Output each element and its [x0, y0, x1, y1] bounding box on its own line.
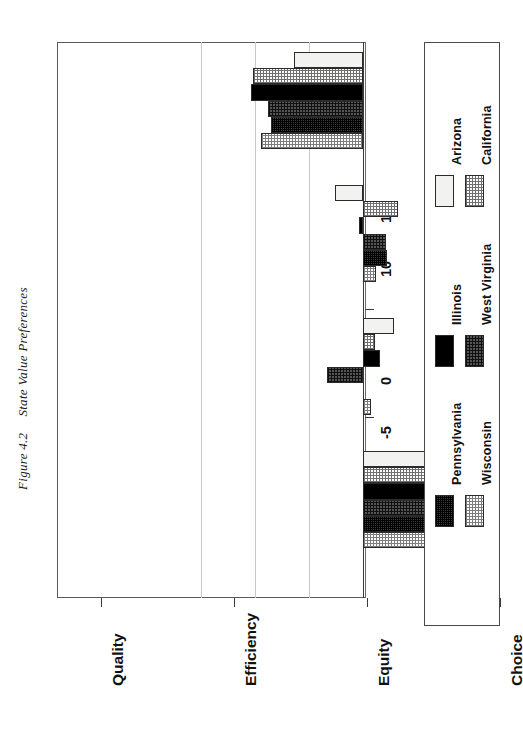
legend-swatch-california [465, 175, 484, 207]
category-label-efficiency: Efficiency [242, 613, 260, 686]
legend-label-illinois: Illinois [450, 284, 464, 325]
bar-equity-california [363, 334, 375, 350]
legend-swatch-illinois [435, 335, 454, 367]
value-tick--5 [365, 417, 374, 418]
category-label-choice: Choice [508, 634, 523, 686]
value-tick-label--5: -5 [378, 399, 392, 439]
bar-choice-arizona [363, 451, 427, 467]
figure-number: Figure 4.2 [15, 433, 31, 490]
gridline-10 [255, 42, 256, 598]
bar-efficiency-wisconsin [363, 266, 376, 282]
legend-swatch-arizona [435, 175, 454, 207]
bar-quality-california [253, 68, 363, 84]
legend-label-wisconsin: Wisconsin [480, 421, 494, 485]
legend-label-arizona: Arizona [450, 118, 464, 165]
bar-equity-wisconsin [363, 399, 371, 415]
figure-title: State Value Preferences [15, 287, 31, 416]
bar-efficiency-pennsylvania [363, 250, 387, 266]
legend: ArizonaCaliforniaIllinoisWest VirginiaPe… [424, 42, 500, 626]
value-tick-5 [365, 309, 374, 310]
bar-efficiency-california [363, 201, 398, 217]
figure-page: Figure 4.2 State Value Preferences 15105… [0, 0, 523, 754]
bar-quality-illinois [251, 84, 363, 100]
bar-equity-westvirginia [327, 367, 363, 383]
bar-efficiency-westvirginia [363, 234, 386, 250]
legend-label-westvirginia: West Virginia [480, 244, 494, 325]
bar-quality-wisconsin [261, 133, 363, 149]
bar-quality-westvirginia [268, 101, 363, 117]
bar-efficiency-arizona [335, 185, 363, 201]
category-tick-efficiency [234, 598, 235, 607]
category-tick-equity [367, 598, 368, 607]
figure-caption: Figure 4.2 State Value Preferences [10, 250, 38, 490]
gridline-15 [201, 42, 202, 598]
bar-efficiency-illinois [359, 217, 363, 233]
bar-quality-pennsylvania [271, 117, 363, 133]
bar-choice-california [363, 467, 431, 483]
legend-swatch-wisconsin [465, 495, 484, 527]
bar-equity-arizona [363, 318, 394, 334]
legend-label-california: California [480, 105, 494, 165]
legend-swatch-westvirginia [465, 335, 484, 367]
category-label-quality: Quality [109, 633, 127, 686]
category-tick-quality [101, 598, 102, 607]
category-label-equity: Equity [375, 639, 393, 686]
legend-swatch-pennsylvania [435, 495, 454, 527]
bar-equity-illinois [363, 350, 380, 366]
legend-label-pennsylvania: Pennsylvania [450, 403, 464, 485]
bar-quality-arizona [294, 52, 363, 68]
